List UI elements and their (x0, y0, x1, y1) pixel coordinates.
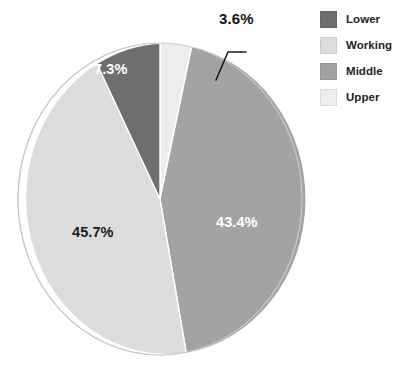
legend-item-middle[interactable]: Middle (320, 62, 403, 80)
legend-item-working[interactable]: Working (320, 36, 403, 54)
slice-value-lower: 7.3% (94, 61, 127, 77)
legend-label-upper: Upper (346, 91, 379, 103)
chart-legend: Lower Working Middle Upper (320, 10, 403, 114)
legend-swatch-lower (320, 11, 337, 28)
slice-value-upper: 3.6% (219, 10, 254, 27)
legend-label-middle: Middle (346, 65, 383, 77)
chart-title-remnant (60, 0, 280, 3)
legend-label-working: Working (346, 39, 392, 51)
legend-label-lower: Lower (346, 13, 380, 25)
legend-item-upper[interactable]: Upper (320, 88, 403, 106)
legend-swatch-middle (320, 63, 337, 80)
slice-value-middle: 43.4% (216, 214, 258, 230)
pie-chart-figure: 3.6% 7.3% 43.4% 45.7% Lower Working Midd… (0, 0, 403, 383)
pie-chart (16, 34, 306, 364)
slice-value-working: 45.7% (72, 224, 114, 240)
legend-swatch-upper (320, 89, 337, 106)
legend-swatch-working (320, 37, 337, 54)
pie-chart-svg (16, 34, 306, 364)
legend-item-lower[interactable]: Lower (320, 10, 403, 28)
upper-slice-leader-line (214, 50, 254, 100)
